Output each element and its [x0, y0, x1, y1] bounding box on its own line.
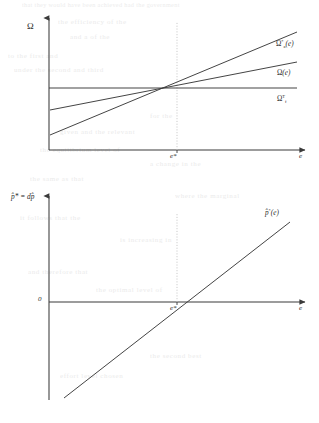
curve-label-omega: Ω(e) — [277, 69, 290, 77]
curve-label-omega-f-t: ΩTf — [277, 95, 287, 103]
curve-omega — [50, 62, 297, 110]
omega-x-axis-label: e — [299, 152, 302, 160]
curve-omega-a-star — [50, 32, 297, 135]
omega-x-tick-label: e* — [170, 152, 177, 160]
phat-x-axis-label: e — [299, 304, 302, 312]
curve-label-phat-star: p̂*(e) — [265, 209, 279, 217]
phat-star-arg: (e) — [271, 209, 279, 217]
curve-label-omega-a-star: Ω*a(e) — [276, 40, 294, 48]
phat-x-tick-label: e* — [170, 304, 177, 312]
omega-a-star-arg: (e) — [286, 40, 294, 48]
phat-panel-group — [49, 196, 305, 400]
omega-f-t-sup: T — [282, 94, 285, 99]
omega-panel-group — [49, 18, 305, 153]
omega-y-axis-label: Ω — [27, 21, 34, 31]
omega-a-star-sup: * — [281, 39, 283, 44]
omega-arg: (e) — [282, 69, 290, 77]
phat-y-axis-label: p̂* = dp̂ — [11, 192, 34, 201]
phat-origin-label: 0 — [38, 295, 42, 303]
omega-f-t-sub: f — [285, 99, 286, 104]
figure-root: that they would have been achieved had t… — [0, 0, 319, 423]
